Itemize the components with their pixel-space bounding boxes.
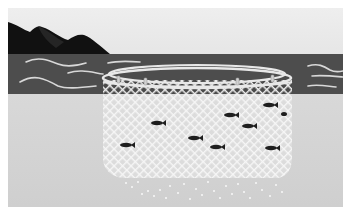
- net-cage: [103, 80, 292, 178]
- fish-farm-illustration: [8, 8, 343, 207]
